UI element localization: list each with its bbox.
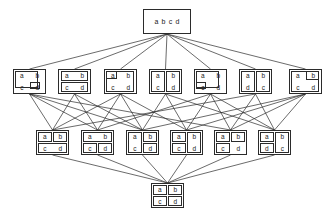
element-letter: c xyxy=(195,82,211,94)
element-letter: b xyxy=(166,70,182,82)
element-letter: a xyxy=(152,184,168,196)
element-letter: a xyxy=(150,70,166,82)
partition-grid: abcd xyxy=(105,70,136,93)
element-letter: b xyxy=(187,131,203,143)
element-letter: d xyxy=(240,82,256,94)
element-letter: c xyxy=(150,82,166,94)
partition-node: abcd xyxy=(36,130,69,155)
element-letter: c xyxy=(275,143,291,155)
element-letter: d xyxy=(231,143,247,155)
partition-node: abcd xyxy=(214,130,247,155)
element-letter: b xyxy=(275,131,291,143)
element-letter: b xyxy=(75,70,91,82)
element-letter: c xyxy=(82,143,98,155)
partition-node: abcd xyxy=(126,130,159,155)
element-letter: b xyxy=(168,184,184,196)
partition-node: abcd xyxy=(170,130,203,155)
partition-node: abcd xyxy=(104,69,137,94)
element-letter: c xyxy=(169,17,173,26)
element-letter: d xyxy=(259,143,275,155)
element-letter: b xyxy=(98,131,114,143)
element-letter: d xyxy=(168,196,184,208)
partition-grid: abcd xyxy=(59,70,90,93)
element-letter: a xyxy=(82,131,98,143)
element-letter: b xyxy=(306,70,322,82)
element-letter: a xyxy=(14,70,30,82)
element-letter: b xyxy=(53,131,69,143)
element-letter: b xyxy=(211,70,227,82)
partition-grid: abcd xyxy=(171,131,202,154)
element-letter: c xyxy=(215,143,231,155)
partition-grid: abcd xyxy=(290,70,321,93)
element-letter: c xyxy=(127,143,143,155)
element-letter: b xyxy=(143,131,159,143)
element-letter: a xyxy=(155,17,159,26)
element-letter: d xyxy=(30,82,46,94)
partition-node: abcd xyxy=(13,69,46,94)
partition-grid: abdc xyxy=(240,70,271,93)
partition-node: abcd xyxy=(151,183,184,208)
partition-node: abcd xyxy=(81,130,114,155)
element-letter: c xyxy=(14,82,30,94)
element-letter: d xyxy=(211,82,227,94)
element-letter: a xyxy=(240,70,256,82)
element-letter: a xyxy=(37,131,53,143)
element-letter: a xyxy=(215,131,231,143)
partition-node: abdc xyxy=(239,69,272,94)
element-letter: d xyxy=(121,82,137,94)
element-letter: d xyxy=(175,17,179,26)
partition-node: abcd xyxy=(194,69,227,94)
partition-grid: abcd xyxy=(152,184,183,207)
element-letter: a xyxy=(105,70,121,82)
partition-lattice-figure: abcdabcdabcdabcdabcdabcdabdcabcdabcdabcd… xyxy=(0,0,335,211)
element-letter: b xyxy=(256,70,272,82)
element-letter: d xyxy=(166,82,182,94)
partition-node: abcd xyxy=(289,69,322,94)
partition-grid: abcd xyxy=(195,70,226,93)
node-layer: abcdabcdabcdabcdabcdabcdabdcabcdabcdabcd… xyxy=(0,0,335,211)
element-letter: c xyxy=(152,196,168,208)
element-letter: c xyxy=(256,82,272,94)
element-letter: b xyxy=(162,17,166,26)
element-letter: d xyxy=(306,82,322,94)
element-letter: c xyxy=(59,82,75,94)
partition-node: abdc xyxy=(258,130,291,155)
element-letter: b xyxy=(121,70,137,82)
partition-node-label: abcd xyxy=(155,17,180,26)
element-letter: c xyxy=(290,82,306,94)
element-letter: d xyxy=(187,143,203,155)
element-letter: a xyxy=(59,70,75,82)
element-letter: c xyxy=(105,82,121,94)
element-letter: a xyxy=(195,70,211,82)
partition-node: abcd xyxy=(143,9,191,34)
partition-grid: abcd xyxy=(150,70,181,93)
element-letter: a xyxy=(259,131,275,143)
element-letter: a xyxy=(171,131,187,143)
partition-node: abcd xyxy=(58,69,91,94)
partition-grid: abcd xyxy=(127,131,158,154)
partition-grid: abcd xyxy=(82,131,113,154)
element-letter: b xyxy=(231,131,247,143)
element-letter: a xyxy=(290,70,306,82)
element-letter: d xyxy=(98,143,114,155)
element-letter: d xyxy=(75,82,91,94)
element-letter: a xyxy=(127,131,143,143)
partition-grid: abcd xyxy=(215,131,246,154)
element-letter: c xyxy=(37,143,53,155)
partition-grid: abcd xyxy=(37,131,68,154)
element-letter: d xyxy=(143,143,159,155)
partition-node: abcd xyxy=(149,69,182,94)
element-letter: c xyxy=(171,143,187,155)
partition-grid: abcd xyxy=(14,70,45,93)
element-letter: d xyxy=(53,143,69,155)
element-letter: b xyxy=(30,70,46,82)
partition-grid: abdc xyxy=(259,131,290,154)
